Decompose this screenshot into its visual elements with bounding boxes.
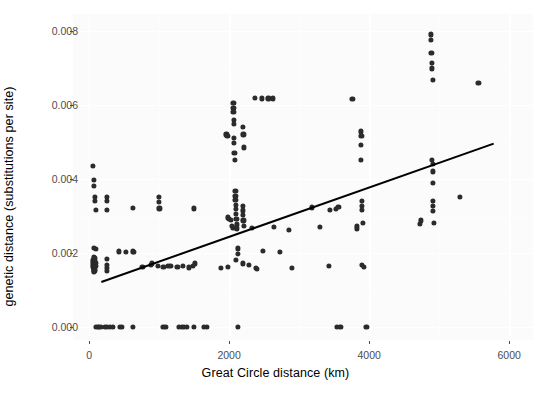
data-point [252,95,257,100]
data-point [163,324,168,329]
scatter-plot-figure: 0.0000.0020.0040.0060.008 0200040006000 … [0,0,551,393]
y-tick-label: 0.004 [52,173,78,185]
x-tick-mark [369,341,370,344]
gridline-vertical-minor [159,14,160,340]
data-point [218,265,223,270]
gridline-horizontal-minor [73,142,533,143]
gridline-vertical-minor [439,14,440,340]
data-point [336,204,341,209]
y-axis-title: genetic distance (substitutions per site… [0,0,18,393]
gridline-horizontal [73,31,533,32]
gridline-vertical [509,14,510,340]
y-tick-label: 0.000 [52,321,78,333]
data-point [241,132,246,137]
data-point [235,251,240,256]
gridline-vertical [229,14,230,340]
data-point [241,223,246,228]
y-tick-mark [70,327,73,328]
data-point [350,97,355,102]
data-point [286,227,291,232]
data-point [232,150,237,155]
data-point [91,177,96,182]
data-point [168,264,173,269]
y-tick-label: 0.002 [52,247,78,259]
x-tick-label: 6000 [498,349,521,361]
gridline-horizontal-minor [73,68,533,69]
gridline-vertical [89,14,90,340]
data-point [157,206,162,211]
data-point [192,261,197,266]
data-point [241,145,246,150]
data-point [476,80,481,85]
data-point [185,324,190,329]
data-point [231,140,236,145]
data-point [130,205,135,210]
data-point [431,208,436,213]
data-point [359,133,364,138]
data-point [327,207,332,212]
data-point [429,37,434,42]
data-point [192,206,197,211]
y-tick-mark [70,105,73,106]
gridline-horizontal-minor [73,216,533,217]
x-tick-label: 0 [86,349,92,361]
x-tick-label: 2000 [217,349,240,361]
y-tick-mark [70,31,73,32]
data-point [110,324,115,329]
data-point [92,198,97,203]
data-point [270,96,275,101]
data-point [241,261,246,266]
data-point [290,265,295,270]
y-tick-label: 0.008 [52,25,78,37]
data-point [259,96,264,101]
data-point [360,220,365,225]
gridline-horizontal [73,105,533,106]
data-point [175,264,180,269]
data-point [361,264,366,269]
data-point [430,180,435,185]
x-tick-mark [509,341,510,344]
gridline-horizontal [73,253,533,254]
data-point [91,183,96,188]
gridline-vertical [369,14,370,340]
data-point [130,324,135,329]
data-point [318,224,323,229]
y-tick-mark [70,253,73,254]
data-point [430,66,435,71]
data-point [360,207,365,212]
data-point [355,226,360,231]
data-point [255,266,260,271]
gridline-horizontal [73,327,533,328]
gridline-horizontal-minor [73,290,533,291]
data-point [431,220,436,225]
data-point [326,263,331,268]
x-tick-label: 4000 [357,349,380,361]
data-point [91,163,96,168]
data-point [430,77,435,82]
data-point [241,124,246,129]
x-axis-title: Great Circle distance (km) [0,366,551,380]
data-point [271,224,276,229]
gridline-vertical-minor [299,14,300,340]
y-tick-mark [70,179,73,180]
y-tick-label: 0.006 [52,99,78,111]
data-point [192,324,197,329]
data-point [246,263,251,268]
data-point [119,324,124,329]
data-point [338,324,343,329]
data-point [236,324,241,329]
data-point [228,217,233,222]
data-point [429,50,434,55]
data-point [358,157,363,162]
data-point [104,257,109,262]
data-point [105,268,110,273]
x-tick-mark [89,341,90,344]
data-point [234,216,239,221]
data-point [157,199,162,204]
x-tick-mark [229,341,230,344]
data-point [232,157,237,162]
data-point [180,263,185,268]
gridline-horizontal [73,179,533,180]
data-point [93,246,98,251]
data-point [418,221,423,226]
